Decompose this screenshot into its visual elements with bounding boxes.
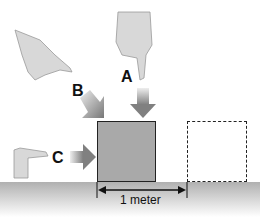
label-b: B xyxy=(72,82,84,100)
arrow-c-icon xyxy=(70,144,96,170)
hand-c-icon xyxy=(14,148,48,178)
label-a: A xyxy=(121,68,133,86)
dimension-label: 1 meter xyxy=(120,193,161,207)
hand-b-icon xyxy=(15,30,72,80)
diagram-graphics xyxy=(0,0,260,217)
arrow-a-icon xyxy=(130,88,156,118)
arrow-b-icon xyxy=(80,90,104,118)
label-c: C xyxy=(52,149,64,167)
